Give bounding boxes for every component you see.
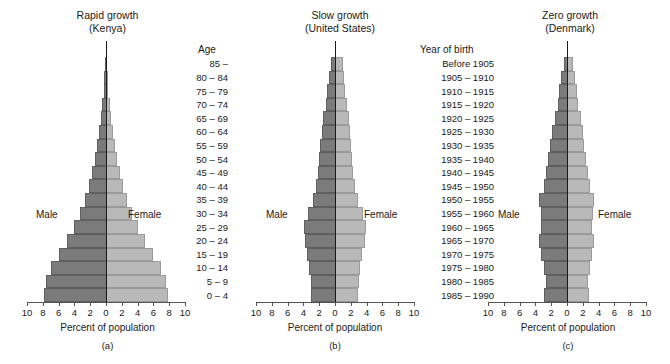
female-bar — [567, 220, 592, 234]
male-bar — [305, 234, 335, 248]
category-label: 85 – — [176, 58, 228, 69]
panel-slow-growth-united-states: Slow growth (United States) Male Female … — [240, 0, 440, 364]
x-tick — [646, 302, 647, 306]
male-bar — [51, 261, 106, 275]
female-bar — [567, 248, 592, 262]
x-tick — [488, 302, 489, 306]
female-bar — [335, 275, 359, 289]
category-label: 5 – 9 — [176, 276, 228, 287]
x-tick-label: 4 — [295, 307, 311, 318]
x-tick — [414, 302, 415, 306]
male-bar — [541, 248, 567, 262]
female-bar — [335, 261, 360, 275]
male-bar — [546, 275, 567, 289]
male-bar — [85, 193, 106, 207]
male-bar — [318, 166, 335, 180]
male-bar — [546, 166, 567, 180]
panel-b-title-line1: Slow growth — [311, 9, 368, 21]
x-tick-label: 4 — [527, 307, 543, 318]
panel-b-axis-title: Percent of population — [235, 322, 435, 333]
x-tick — [567, 302, 568, 306]
female-bar — [335, 220, 366, 234]
x-tick — [74, 302, 75, 306]
female-bar — [335, 166, 353, 180]
x-tick — [153, 302, 154, 306]
male-bar — [558, 98, 567, 112]
female-bar — [567, 71, 575, 85]
male-bar — [304, 220, 335, 234]
x-tick-label: 8 — [264, 307, 280, 318]
female-bar — [106, 139, 115, 153]
x-tick — [367, 302, 368, 306]
panel-c-title-line2: (Denmark) — [470, 22, 670, 35]
male-bar — [555, 111, 567, 125]
panel-c-letter: (c) — [468, 340, 668, 351]
x-tick — [43, 302, 44, 306]
male-bar — [326, 98, 335, 112]
panel-a-axis-title: Percent of population — [0, 322, 215, 333]
x-tick — [303, 302, 304, 306]
category-label: 70 – 74 — [176, 99, 228, 110]
x-tick — [169, 302, 170, 306]
female-bar — [106, 275, 166, 289]
x-tick-label: 2 — [343, 307, 359, 318]
female-bar — [106, 125, 113, 139]
female-bar — [106, 166, 120, 180]
category-label: 80 – 84 — [176, 72, 228, 83]
panel-c-center-axis — [567, 41, 568, 302]
panel-zero-growth-denmark: Zero growth (Denmark) Male Female 108642… — [470, 0, 670, 364]
x-tick — [398, 302, 399, 306]
category-label: 40 – 44 — [176, 181, 228, 192]
x-tick — [583, 302, 584, 306]
x-tick-label: 2 — [114, 307, 130, 318]
male-bar — [322, 125, 335, 139]
female-bar — [106, 234, 145, 248]
category-label: 55 – 59 — [176, 140, 228, 151]
panel-c-axis-title: Percent of population — [468, 322, 668, 333]
category-label: 60 – 64 — [176, 126, 228, 137]
x-tick — [272, 302, 273, 306]
panel-b-title: Slow growth (United States) — [240, 9, 440, 35]
x-tick — [122, 302, 123, 306]
female-bar — [106, 152, 117, 166]
x-tick — [335, 302, 336, 306]
x-tick-label: 8 — [622, 307, 638, 318]
male-bar — [311, 275, 335, 289]
female-bar — [335, 288, 358, 302]
panel-c-title-line1: Zero growth — [542, 9, 598, 21]
panel-b-plot-area — [256, 57, 414, 302]
panel-c-female-label: Female — [598, 209, 631, 220]
x-tick-label: 6 — [51, 307, 67, 318]
male-bar — [92, 166, 106, 180]
x-tick-label: 2 — [311, 307, 327, 318]
male-bar — [67, 234, 106, 248]
male-bar — [307, 248, 335, 262]
x-tick-label: 6 — [606, 307, 622, 318]
female-bar — [335, 125, 350, 139]
female-bar — [106, 248, 153, 262]
x-tick — [27, 302, 28, 306]
category-label: 50 – 54 — [176, 154, 228, 165]
x-tick — [59, 302, 60, 306]
category-label: 35 – 39 — [176, 194, 228, 205]
male-bar — [308, 207, 335, 221]
x-tick-label: 10 — [248, 307, 264, 318]
male-bar — [80, 207, 106, 221]
female-bar — [335, 193, 358, 207]
male-bar — [95, 152, 106, 166]
female-bar — [335, 179, 355, 193]
male-bar — [544, 288, 567, 302]
x-tick-label: 10 — [638, 307, 654, 318]
category-label: 45 – 49 — [176, 167, 228, 178]
x-tick — [382, 302, 383, 306]
x-tick-label: 0 — [98, 307, 114, 318]
x-tick-label: 6 — [512, 307, 528, 318]
year-of-birth-column-header: Year of birth — [420, 44, 474, 55]
female-bar — [567, 275, 588, 289]
female-bar — [335, 139, 351, 153]
x-tick-label: 4 — [591, 307, 607, 318]
male-bar — [327, 84, 335, 98]
female-bar — [567, 84, 577, 98]
male-bar — [311, 288, 335, 302]
male-bar — [59, 248, 106, 262]
